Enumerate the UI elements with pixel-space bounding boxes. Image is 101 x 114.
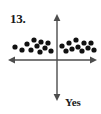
- data-point: [28, 47, 33, 52]
- up-arrowhead-icon: [54, 14, 61, 21]
- data-point: [48, 48, 53, 53]
- data-point: [34, 43, 39, 48]
- horizontal-axis: [8, 57, 97, 64]
- data-point: [19, 47, 24, 52]
- data-point: [73, 37, 78, 42]
- data-point: [42, 45, 47, 50]
- down-arrowhead-icon: [54, 94, 61, 101]
- left-arrowhead-icon: [8, 57, 15, 64]
- data-point: [12, 44, 17, 49]
- data-point: [31, 37, 36, 42]
- data-point: [37, 49, 42, 54]
- exercise-number-label: 13.: [10, 12, 26, 26]
- data-point: [81, 40, 86, 45]
- scatter-plot-figure: 13. Yes: [0, 0, 101, 114]
- data-point: [88, 40, 93, 45]
- right-arrowhead-icon: [90, 57, 97, 64]
- vertical-axis-label: Yes: [65, 96, 81, 108]
- data-point: [63, 48, 68, 53]
- data-point: [79, 48, 84, 53]
- data-point: [75, 44, 80, 49]
- vertical-axis: [54, 14, 61, 101]
- data-point: [66, 40, 71, 45]
- data-point: [85, 45, 90, 50]
- data-point-group: [12, 37, 96, 54]
- data-point: [24, 41, 29, 46]
- data-point: [45, 40, 50, 45]
- data-point: [69, 46, 74, 51]
- data-point: [59, 43, 64, 48]
- data-point: [91, 47, 96, 52]
- data-point: [38, 39, 43, 44]
